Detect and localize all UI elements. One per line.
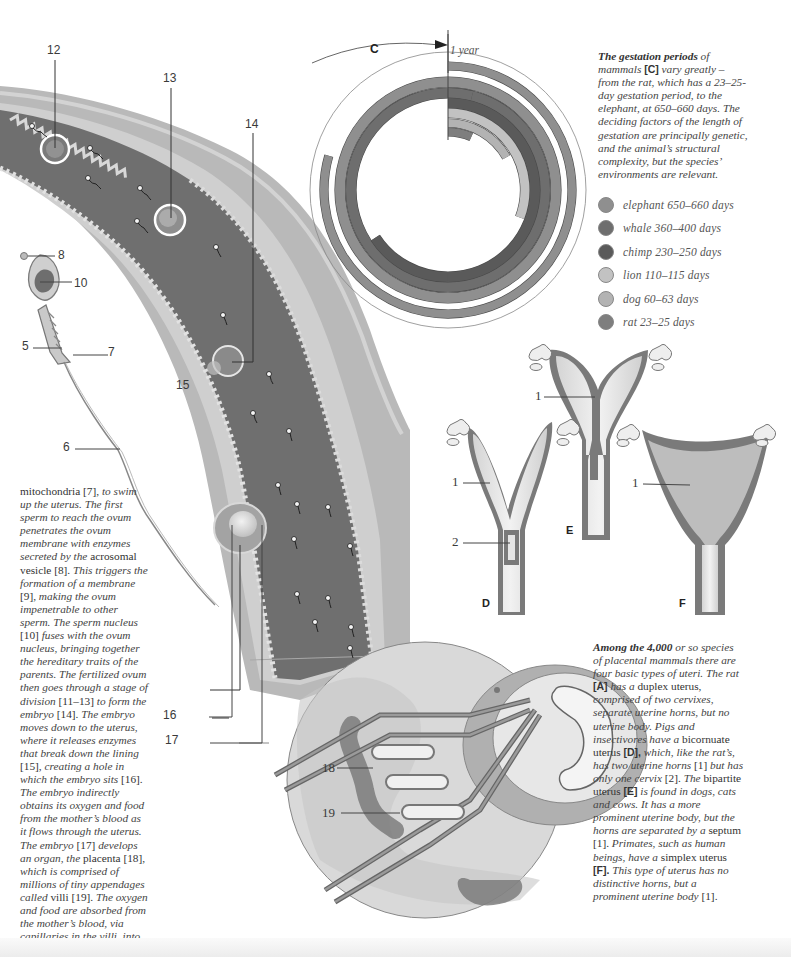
callout-5: 5	[22, 339, 29, 353]
uterus-f-simplex	[642, 430, 770, 615]
callout-17: 17	[165, 733, 178, 747]
legend-item-whale: whale 360–400 days	[598, 217, 734, 241]
uterus-f-body-callout: 1	[632, 475, 639, 491]
gestation-legend: elephant 650–660 days whale 360–400 days…	[598, 193, 734, 334]
callout-15: 15	[176, 378, 189, 392]
legend-swatch-whale	[598, 220, 614, 236]
chart-label-c: C	[370, 42, 379, 56]
callout-13: 13	[163, 71, 176, 85]
legend-swatch-rat	[598, 314, 614, 330]
legend-swatch-elephant	[598, 197, 614, 213]
uterus-e-septum-callout: 1	[535, 388, 542, 404]
callout-14: 14	[245, 117, 258, 131]
one-year-label: 1 year	[450, 44, 479, 56]
uterus-d-bicornuate	[468, 422, 552, 615]
legend-item-elephant: elephant 650–660 days	[598, 193, 734, 217]
uteri-lead: Among the 4,000	[593, 641, 672, 653]
callout-19: 19	[322, 805, 335, 821]
callout-8: 8	[58, 248, 65, 262]
callout-7: 7	[108, 345, 115, 359]
legend-item-lion: lion 110–115 days	[598, 264, 734, 288]
uterus-label-e: E	[566, 524, 573, 536]
uteri-text: Among the 4,000 or so species of placent…	[593, 641, 745, 903]
uterus-label-d: D	[482, 597, 490, 609]
legend-swatch-chimp	[598, 244, 614, 260]
page-bottom-edge	[0, 938, 791, 957]
legend-item-dog: dog 60–63 days	[598, 287, 734, 311]
legend-item-chimp: chimp 230–250 days	[598, 240, 734, 264]
callout-10: 10	[74, 276, 87, 290]
uterus-d-cervix-callout: 2	[452, 534, 459, 550]
gestation-caption: The gestation periods of mammals [C] var…	[598, 50, 748, 181]
callout-16: 16	[163, 708, 176, 722]
callout-6: 6	[63, 440, 70, 454]
caption-lead: The gestation periods	[598, 50, 698, 62]
fertilization-text: mitochondria [7], to swim up the uterus.…	[20, 485, 148, 956]
legend-swatch-dog	[598, 291, 614, 307]
one-year-arrow	[300, 25, 460, 65]
uterus-d-horn-callout: 1	[452, 474, 459, 490]
uterus-label-f: F	[679, 597, 686, 609]
callout-12: 12	[47, 43, 60, 57]
legend-swatch-lion	[598, 267, 614, 283]
uteri-diagrams	[420, 330, 791, 620]
callout-18: 18	[322, 760, 335, 776]
